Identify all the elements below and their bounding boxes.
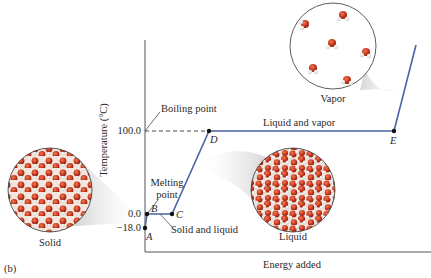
solid-and-liquid-annotation: Solid and liquid bbox=[171, 224, 239, 235]
point-c-marker bbox=[170, 212, 174, 216]
point-b-marker bbox=[145, 212, 149, 216]
y-axis-label: Temperature (°C) bbox=[98, 103, 110, 177]
y-tick-neg18: −18.0 bbox=[117, 222, 141, 233]
y-tick-100: 100.0 bbox=[117, 125, 141, 136]
figure-label: (b) bbox=[4, 263, 17, 275]
point-c-label: C bbox=[176, 209, 184, 220]
point-d-label: D bbox=[209, 134, 218, 145]
point-e-label: E bbox=[389, 135, 397, 146]
boiling-point-leader bbox=[145, 112, 160, 131]
heating-curve-diagram: A B C D E 100.0 0.0 −18.0 Temperature (°… bbox=[0, 0, 431, 278]
point-b-label: B bbox=[151, 203, 158, 214]
liquid-inset bbox=[251, 148, 335, 232]
liquid-and-vapor-annotation: Liquid and vapor bbox=[263, 117, 336, 128]
boiling-point-annotation: Boiling point bbox=[161, 103, 217, 114]
vapor-inset bbox=[290, 3, 376, 89]
vapor-inset-label: Vapor bbox=[320, 93, 346, 104]
point-a-marker bbox=[143, 226, 147, 230]
x-axis-label: Energy added bbox=[263, 259, 322, 270]
y-tick-0: 0.0 bbox=[128, 208, 141, 219]
solid-inset-label: Solid bbox=[39, 237, 62, 248]
melting-point-annotation-line1: Melting bbox=[150, 177, 184, 188]
solid-inset bbox=[8, 148, 92, 232]
point-d-marker bbox=[207, 129, 211, 133]
point-e-marker bbox=[392, 129, 396, 133]
melting-point-annotation-line2: point bbox=[156, 189, 178, 200]
liquid-inset-label: Liquid bbox=[279, 231, 308, 242]
point-a-label: A bbox=[145, 231, 153, 242]
